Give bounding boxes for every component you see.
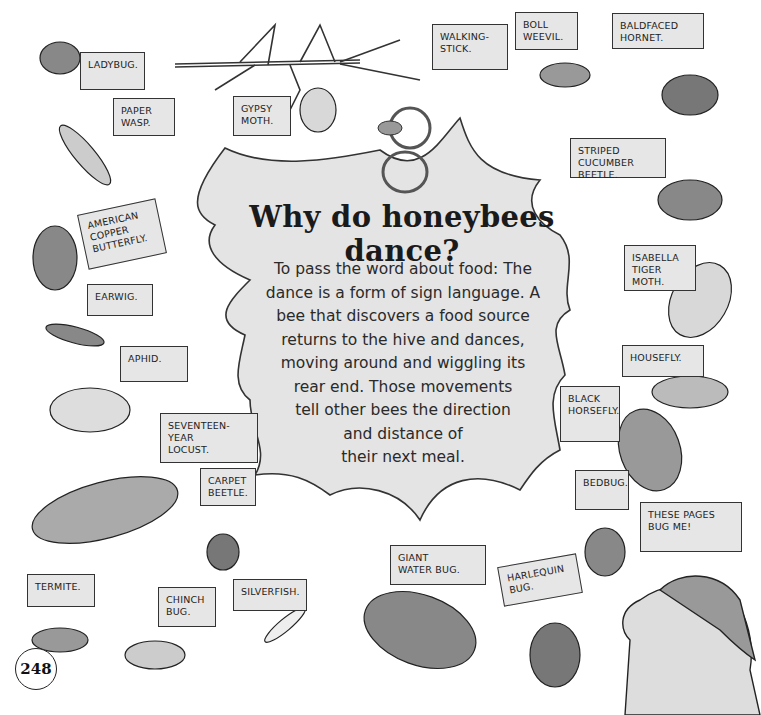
label-paper-wasp: Paper Wasp. (113, 98, 175, 136)
label-earwig: Earwig. (87, 284, 153, 316)
label-baldfaced-hornet: Baldfaced Hornet. (612, 13, 704, 49)
label-gypsy-moth: Gypsy Moth. (233, 96, 291, 136)
boy-character-icon (623, 576, 760, 715)
harlequin-bug-icon (530, 623, 580, 687)
striped-cucumber-beetle-icon (658, 180, 722, 220)
carpet-beetle-icon (207, 534, 239, 570)
label-termite: Termite. (27, 574, 95, 607)
housefly-icon (652, 376, 728, 408)
label-carpet-beetle: Carpet Beetle. (200, 468, 256, 506)
answer-line: returns to the hive and dances, (248, 329, 558, 353)
page-number: 248 (15, 648, 57, 690)
label-aphid: Aphid. (120, 346, 188, 382)
chinch-bug-icon (125, 641, 185, 669)
baldfaced-hornet-icon (662, 75, 718, 115)
gypsy-moth-icon (300, 88, 336, 132)
answer-line: moving around and wiggling its (248, 352, 558, 376)
answer-text: To pass the word about food: The dance i… (248, 258, 558, 470)
walking-stick-icon (175, 25, 420, 110)
label-ladybug: Ladybug. (80, 52, 145, 90)
label-isabella-tiger-moth: Isabella Tiger Moth. (624, 245, 696, 291)
boll-weevil-icon (540, 63, 590, 87)
answer-line: and distance of (248, 423, 558, 447)
american-copper-butterfly-icon (33, 226, 77, 290)
label-seventeen-year-locust: Seventeen-Year Locust. (160, 413, 258, 463)
label-giant-water-bug: Giant Water Bug. (390, 545, 486, 585)
ladybug-icon (40, 42, 80, 74)
answer-line: their next meal. (248, 446, 558, 470)
label-silverfish: Silverfish. (233, 579, 307, 611)
answer-line: rear end. Those movements (248, 376, 558, 400)
label-bedbug: Bedbug. (575, 470, 629, 510)
label-striped-cucumber-beetle: Striped Cucumber Beetle. (570, 138, 666, 178)
bedbug-icon (585, 528, 625, 576)
label-boll-weevil: Boll Weevil. (515, 12, 578, 50)
answer-line: tell other bees the direction (248, 399, 558, 423)
answer-line: dance is a form of sign language. A (248, 282, 558, 306)
label-black-horsefly: Black Horsefly. (560, 386, 620, 442)
answer-line: To pass the word about food: The (248, 258, 558, 282)
book-page: Ladybug. Paper Wasp. Gypsy Moth. Walking… (0, 0, 761, 715)
label-chinch-bug: Chinch Bug. (158, 587, 216, 627)
label-housefly: Housefly. (622, 345, 704, 377)
paper-wasp-icon (53, 119, 117, 190)
giant-water-bug-icon (354, 577, 487, 682)
honeybee-icon (378, 121, 402, 135)
answer-line: bee that discovers a food source (248, 305, 558, 329)
label-walking-stick: Walking- Stick. (432, 24, 508, 70)
aphid-icon (50, 388, 130, 432)
earwig-icon (44, 320, 106, 351)
label-these-pages-bug-me: These Pages Bug Me! (640, 502, 742, 552)
seventeen-year-locust-icon (25, 464, 184, 557)
